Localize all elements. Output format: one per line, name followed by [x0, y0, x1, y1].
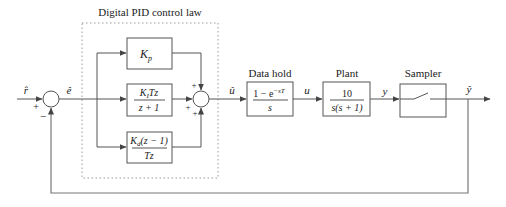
data-hold-title: Data hold: [248, 67, 292, 79]
data-hold-denominator: s: [268, 102, 272, 113]
plant-numerator: 10: [342, 88, 352, 99]
summing-junction-pid: [193, 91, 209, 107]
junction2-plus-left: +: [185, 102, 190, 112]
u-label: u: [304, 84, 310, 96]
sampler-title: Sampler: [405, 67, 442, 79]
plant-denominator: s(s + 1): [331, 102, 363, 114]
plant-title: Plant: [336, 67, 359, 79]
pid-block-diagram: Digital PID control law r̂ + − ê Kp KITz…: [0, 0, 506, 207]
sampler-block: [400, 84, 446, 117]
junction1-plus: +: [33, 101, 39, 112]
junction2-plus-bottom: +: [192, 108, 197, 118]
y-label: y: [382, 85, 388, 97]
summing-junction-error: [43, 91, 59, 107]
junction1-minus: −: [40, 110, 46, 122]
e-hat-label: ê: [67, 84, 72, 96]
kp-output-arrow: [172, 53, 201, 90]
u-hat-label: û: [229, 84, 235, 96]
pid-title: Digital PID control law: [98, 6, 202, 18]
r-hat-label: r̂: [24, 84, 29, 96]
y-hat-label: ŷ: [466, 83, 472, 95]
ki-denominator: z + 1: [138, 102, 160, 113]
junction2-plus-top: +: [191, 80, 196, 90]
kd-denominator: Tz: [144, 150, 154, 161]
